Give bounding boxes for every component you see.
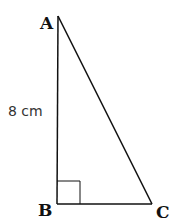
vertex-label-b: B [38,200,52,220]
side-ab [57,16,58,204]
triangle-diagram: A B C 8 cm [0,0,176,223]
vertex-label-c: C [156,202,170,222]
side-length-ab: 8 cm [8,103,43,119]
side-ac [58,16,152,204]
right-angle-marker [57,181,80,204]
vertex-label-a: A [39,13,54,33]
